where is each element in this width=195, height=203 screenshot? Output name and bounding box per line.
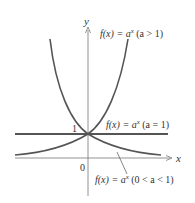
exponential-graph: y x 0 1 f(x) = ax (a > 1) f(x) = ax (a =… <box>0 0 195 203</box>
curve-decay <box>50 39 161 155</box>
constant-label: f(x) = ax (a = 1) <box>106 118 169 131</box>
curve-growth <box>15 39 128 155</box>
growth-label: f(x) = ax (a > 1) <box>100 27 163 40</box>
decay-leader-line <box>117 152 127 174</box>
decay-label: f(x) = ax (0 < a < 1) <box>95 173 174 186</box>
x-axis-label: x <box>175 152 181 164</box>
y-axis-label: y <box>83 15 89 27</box>
origin-label: 0 <box>80 162 85 173</box>
y-tick-1-label: 1 <box>72 123 77 134</box>
